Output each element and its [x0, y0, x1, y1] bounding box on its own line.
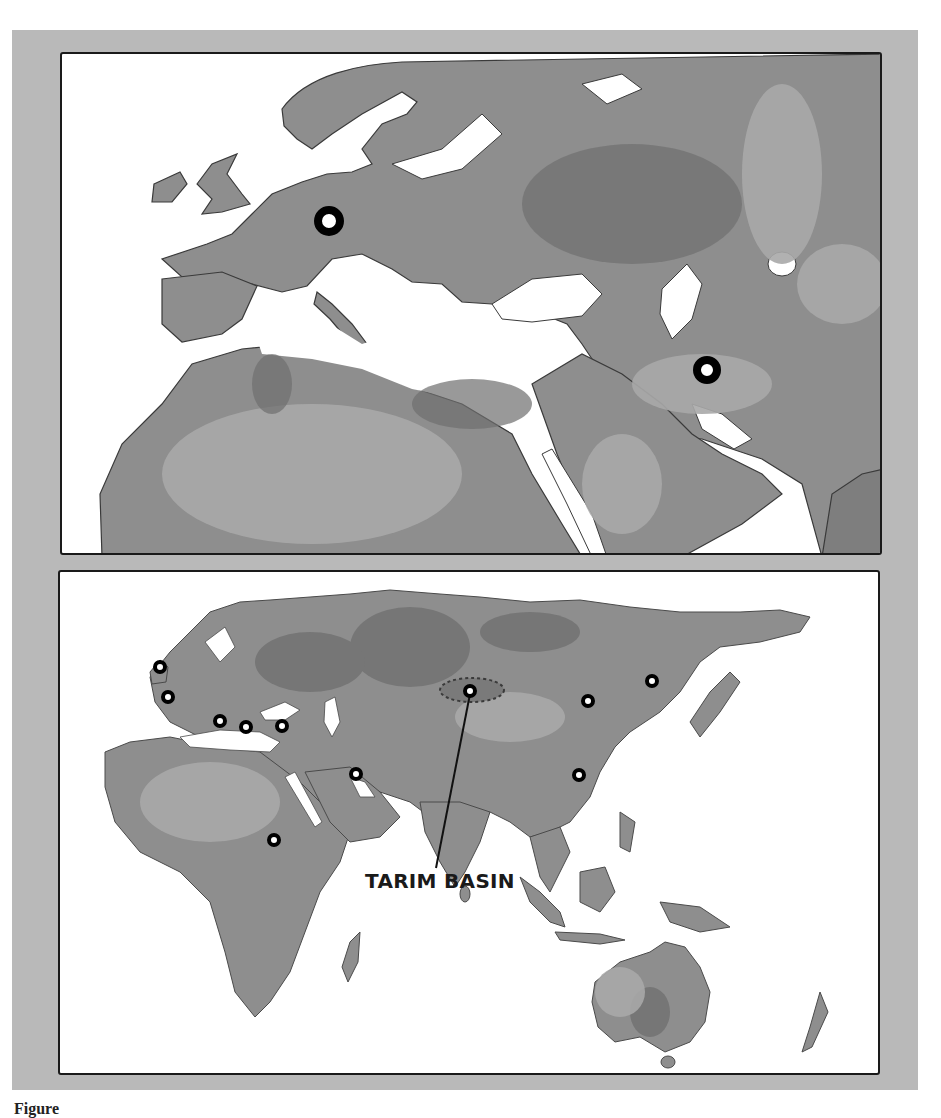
tasmania — [661, 1056, 675, 1068]
site-marker-egypt — [269, 835, 279, 845]
iberia — [162, 272, 257, 342]
site-marker-manchuria — [647, 676, 657, 686]
site-marker-mesopotamia — [351, 769, 361, 779]
borneo — [580, 867, 615, 912]
site-marker-central-europe — [318, 210, 340, 232]
bottom-map — [60, 572, 880, 1075]
bottom-map-panel: TARIM BASIN — [58, 570, 880, 1075]
site-marker-north-china — [583, 696, 593, 706]
japan — [690, 672, 740, 737]
site-marker-britain — [155, 662, 165, 672]
site-marker-anatolia — [277, 721, 287, 731]
site-marker-iran — [697, 360, 717, 380]
site-marker-central-china — [574, 770, 584, 780]
sumatra — [520, 877, 565, 927]
java — [555, 932, 625, 944]
site-marker-italy — [215, 716, 225, 726]
madagascar — [342, 932, 360, 982]
site-marker-france — [163, 692, 173, 702]
site-marker-tarim — [465, 686, 475, 696]
site-marker-greece — [241, 722, 251, 732]
new-zealand — [802, 992, 828, 1052]
new-guinea — [660, 902, 730, 932]
figure-frame: TARIM BASIN — [12, 30, 918, 1090]
southeast-asia — [530, 827, 570, 892]
top-map — [62, 54, 882, 555]
tarim-basin-label: TARIM BASIN — [365, 869, 515, 893]
great-britain — [197, 154, 250, 214]
figure-caption: Figure — [14, 1100, 59, 1118]
ireland — [152, 172, 187, 202]
top-map-panel — [60, 52, 882, 555]
philippines — [620, 812, 635, 852]
